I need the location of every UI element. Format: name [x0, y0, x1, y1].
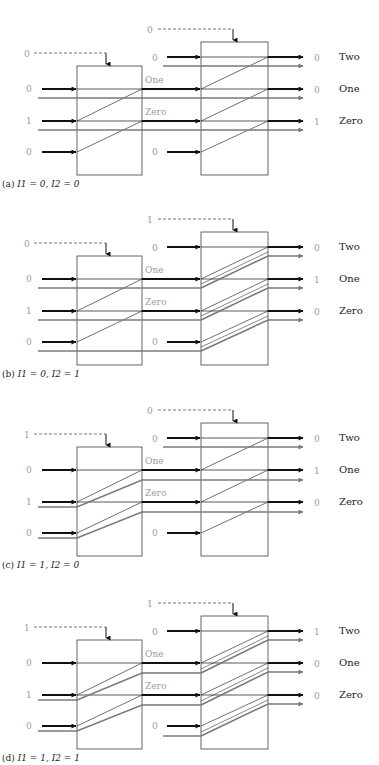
shift-diagonal [77, 695, 142, 726]
carry-shift-line [38, 705, 201, 731]
shifter-box-1 [77, 640, 142, 749]
panel-a: 00010OneZero000Two0One1Zero(a) I1 = 0, I… [2, 25, 363, 189]
intermediate-label-zero: Zero [145, 297, 166, 307]
shifter-box-1 [77, 66, 142, 175]
input-value: 1 [26, 116, 32, 126]
output-label: One [339, 273, 360, 284]
input-value: 0 [152, 627, 158, 637]
output-label: Zero [339, 305, 363, 316]
control-value-1: 1 [24, 623, 30, 633]
output-value: 0 [314, 53, 320, 63]
input-value: 0 [26, 528, 32, 538]
panel-d: 11010OneZero001Two0One0Zero(d) I1 = 1, I… [2, 599, 363, 763]
shift-diagonal [77, 121, 142, 152]
input-value: 0 [152, 53, 158, 63]
output-value: 1 [314, 627, 320, 637]
shift-diagonal [201, 636, 268, 669]
shift-diagonal [77, 279, 142, 311]
output-value: 1 [314, 466, 320, 476]
input-value: 0 [26, 337, 32, 347]
shifter-box-1 [77, 447, 142, 556]
input-value: 0 [26, 721, 32, 731]
intermediate-label-zero: Zero [145, 488, 166, 498]
control-value-1: 1 [24, 430, 30, 440]
output-label: Zero [339, 115, 363, 126]
shift-diagonal [201, 700, 268, 732]
caption-text: I1 = 1, I2 = 0 [16, 560, 80, 570]
carry-shift-line [38, 512, 201, 538]
shift-diagonal [77, 470, 142, 502]
output-label: Zero [339, 496, 363, 507]
panel-caption: (b) I1 = 0, I2 = 1 [2, 369, 80, 379]
control-value-2: 0 [147, 406, 153, 416]
output-value: 0 [314, 307, 320, 317]
shift-diagonal [77, 502, 142, 533]
caption-text: I1 = 0, I2 = 1 [17, 369, 80, 379]
intermediate-label-zero: Zero [145, 681, 166, 691]
intermediate-label-one: One [145, 75, 164, 85]
carry-shift-line [201, 672, 303, 705]
carry-shift-line [38, 480, 201, 507]
carry-shift-line [201, 320, 303, 351]
shift-diagonal [201, 438, 268, 470]
shift-diagonal [201, 89, 268, 121]
panel-caption: (a) I1 = 0, I2 = 0 [2, 179, 80, 189]
output-label: Two [339, 241, 360, 252]
control-value-2: 0 [147, 25, 153, 35]
output-value: 0 [314, 243, 320, 253]
input-value: 0 [26, 465, 32, 475]
input-value: 0 [152, 434, 158, 444]
shift-diagonal [201, 121, 268, 152]
shift-diagonal [201, 668, 268, 701]
output-value: 1 [314, 275, 320, 285]
input-value: 1 [26, 497, 32, 507]
shift-diagonal [201, 316, 268, 347]
output-label: Two [339, 432, 360, 443]
control-value-2: 1 [147, 215, 153, 225]
shift-diagonal [77, 89, 142, 121]
shift-diagonal [77, 311, 142, 342]
panel-c: 10010OneZero000Two1One0Zero(c) I1 = 1, I… [2, 406, 363, 570]
input-value: 0 [152, 337, 158, 347]
output-value: 0 [314, 434, 320, 444]
intermediate-label-one: One [145, 649, 164, 659]
shift-diagonal [201, 470, 268, 502]
shift-diagonal [77, 663, 142, 695]
caption-prefix: (a) [2, 179, 17, 189]
input-value: 0 [152, 147, 158, 157]
control-value-1: 0 [24, 49, 30, 59]
caption-prefix: (b) [2, 369, 18, 379]
output-value: 0 [314, 691, 320, 701]
output-label: One [339, 657, 360, 668]
output-value: 0 [314, 659, 320, 669]
adder-diagram: 00010OneZero000Two0One1Zero(a) I1 = 0, I… [0, 0, 379, 765]
input-value: 0 [26, 147, 32, 157]
input-value: 0 [152, 721, 158, 731]
output-label: One [339, 464, 360, 475]
carry-shift-line [38, 673, 201, 700]
panel-caption: (d) I1 = 1, I2 = 1 [2, 753, 80, 763]
output-value: 0 [314, 85, 320, 95]
intermediate-label-one: One [145, 265, 164, 275]
input-value: 0 [26, 658, 32, 668]
output-value: 0 [314, 498, 320, 508]
shift-diagonal [201, 57, 268, 89]
output-label: Two [339, 625, 360, 636]
input-value: 0 [26, 274, 32, 284]
shift-diagonal [201, 502, 268, 533]
panel-b: 01010OneZero000Two1One0Zero(b) I1 = 0, I… [2, 215, 363, 379]
carry-shift-line [201, 704, 303, 736]
output-value: 1 [314, 117, 320, 127]
control-value-2: 1 [147, 599, 153, 609]
caption-prefix: (c) [2, 560, 17, 570]
caption-text: I1 = 1, I2 = 1 [17, 753, 80, 763]
intermediate-label-zero: Zero [145, 107, 166, 117]
shifter-box-1 [77, 256, 142, 365]
control-value-1: 0 [24, 239, 30, 249]
input-value: 0 [152, 528, 158, 538]
output-label: Zero [339, 689, 363, 700]
input-value: 1 [26, 306, 32, 316]
output-label: Two [339, 51, 360, 62]
input-value: 1 [26, 690, 32, 700]
carry-shift-line [201, 640, 303, 673]
